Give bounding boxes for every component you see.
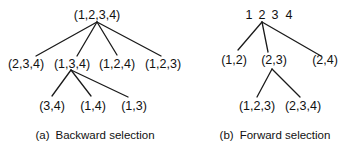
caption-a-text: Backward selection xyxy=(55,129,154,141)
edge-b-2-24 xyxy=(262,22,321,56)
node-a-l1-0: (2,3,4) xyxy=(8,57,44,71)
node-a-l1-1: (1,3,4) xyxy=(54,57,90,71)
tree-edges xyxy=(0,0,349,148)
caption-b-text: Forward selection xyxy=(240,129,331,141)
node-b-l1-1: (2,3) xyxy=(261,53,287,67)
edge-a-134-34 xyxy=(52,70,71,96)
caption-a-tag: (a) xyxy=(35,129,49,141)
edge-b-2-12 xyxy=(238,22,262,50)
node-b-l2-1: (2,3,4) xyxy=(285,99,321,113)
node-b-root-4: 4 xyxy=(286,8,293,22)
node-a-l1-3: (1,2,3) xyxy=(145,57,181,71)
edge-a-root-234 xyxy=(36,22,97,56)
edge-b-23-123 xyxy=(257,69,272,97)
caption-b-tag: (b) xyxy=(220,129,234,141)
node-a-l2-1: (1,4) xyxy=(80,99,106,113)
node-b-root-3: 3 xyxy=(272,8,279,22)
edge-a-134-14 xyxy=(71,70,91,96)
caption-a: (a)Backward selection xyxy=(35,128,154,142)
node-b-root-1: 1 xyxy=(246,8,253,22)
edge-a-134-13 xyxy=(71,70,128,97)
node-b-l1-0: (1,2) xyxy=(221,53,247,67)
caption-b: (b)Forward selection xyxy=(220,128,331,142)
edge-b-23-234 xyxy=(272,69,300,97)
node-a-root: (1,2,3,4) xyxy=(74,8,121,22)
node-a-l2-0: (3,4) xyxy=(39,99,65,113)
edge-b-2-23 xyxy=(262,22,268,52)
node-b-l1-2: (2,4) xyxy=(312,53,338,67)
node-b-root-2: 2 xyxy=(259,8,266,22)
node-a-l1-2: (1,2,4) xyxy=(99,57,135,71)
node-b-l2-0: (1,2,3) xyxy=(239,99,275,113)
node-a-l2-2: (1,3) xyxy=(121,99,147,113)
